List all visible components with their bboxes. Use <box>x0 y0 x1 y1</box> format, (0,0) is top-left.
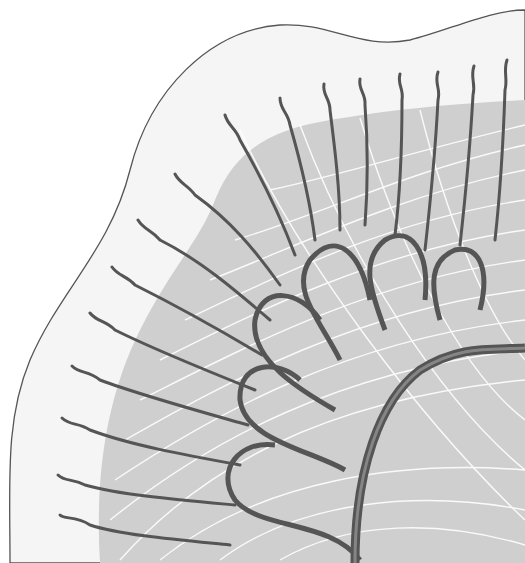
diagram-canvas <box>0 0 525 563</box>
vascular-diagram <box>0 0 525 563</box>
